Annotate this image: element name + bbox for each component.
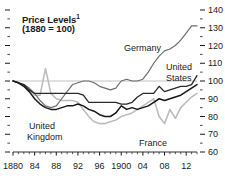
series-label-united-states-line2: States xyxy=(166,73,192,84)
y-axis-tick-label: 140 xyxy=(208,5,223,15)
x-axis-tick-label: 84 xyxy=(30,161,40,171)
series-label-united-kingdom-line2: Kingdom xyxy=(27,132,63,143)
title-footnote-marker: 1 xyxy=(76,13,80,20)
y-axis-tick-label: 110 xyxy=(208,58,222,68)
x-axis-tick-label: 92 xyxy=(73,161,83,171)
x-axis-tick-label: 12 xyxy=(181,161,191,171)
x-axis-tick-label: 08 xyxy=(160,161,170,171)
y-axis-tick-label: 90 xyxy=(208,94,218,104)
y-axis-tick-label: 70 xyxy=(208,129,218,139)
y-axis-tick-label: 120 xyxy=(208,41,223,51)
x-axis-tick-label: 1880 xyxy=(3,161,23,171)
x-axis-tick-label: 04 xyxy=(138,161,148,171)
x-axis-tick-label: 88 xyxy=(51,161,61,171)
y-axis-tick-label: 80 xyxy=(208,112,218,122)
series-label-united-states-line1: United xyxy=(166,62,192,73)
series-label-germany: Germany xyxy=(124,43,161,54)
series-label-united-kingdom-line1: United xyxy=(29,121,55,132)
x-axis-tick-label: 96 xyxy=(95,161,105,171)
series-label-france: France xyxy=(139,138,167,149)
y-axis-tick-label: 60 xyxy=(208,147,218,157)
x-axis-tick-label: 1900 xyxy=(111,161,131,171)
price-levels-chart: Price Levels1 (1880 = 100) Germany Unite… xyxy=(0,0,225,185)
y-axis-tick-label: 100 xyxy=(208,76,223,86)
chart-subtitle: (1880 = 100) xyxy=(22,23,75,34)
y-axis-tick-label: 130 xyxy=(208,23,223,33)
